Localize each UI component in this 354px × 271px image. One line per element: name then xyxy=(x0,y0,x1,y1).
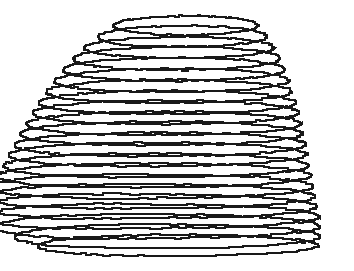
wireframe-surface-plot xyxy=(0,0,354,271)
figure-root xyxy=(0,0,354,271)
